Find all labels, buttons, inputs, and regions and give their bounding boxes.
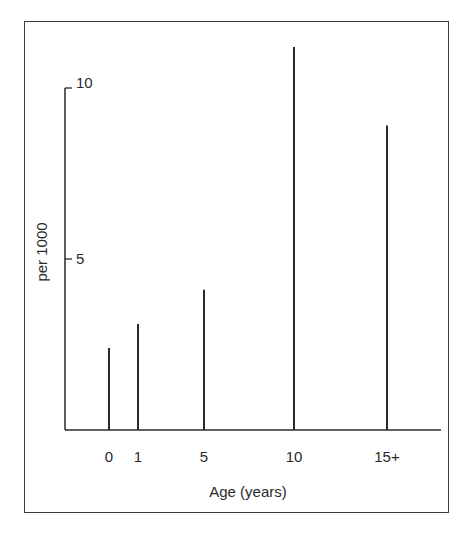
x-tick-label: 10: [286, 448, 303, 465]
y-tick-label: 10: [76, 74, 93, 91]
x-tick-label: 5: [200, 448, 208, 465]
x-axis-title-text: Age (years): [209, 483, 287, 500]
y-axis-title-text: per 1000: [33, 222, 50, 281]
y-tick-label: 5: [76, 250, 84, 267]
bar-chart: 5100151015+Age (years)per 1000: [0, 0, 472, 536]
x-tick-label: 15+: [374, 448, 400, 465]
x-tick-label: 0: [105, 448, 113, 465]
x-tick-label: 1: [134, 448, 142, 465]
